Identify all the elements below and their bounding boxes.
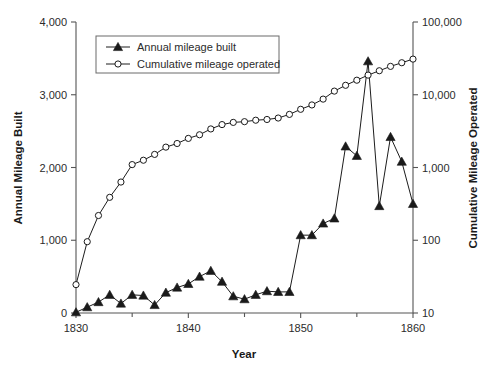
y-tick-label: 3,000 (39, 89, 67, 101)
data-point-marker (264, 116, 270, 122)
data-point-marker (140, 157, 146, 163)
x-tick-label: 1850 (288, 322, 312, 334)
legend-label: Cumulative mileage operated (137, 58, 280, 70)
data-point-marker (241, 119, 247, 125)
chart-canvas: 01,0002,0003,0004,000 101001,00010,00010… (0, 0, 496, 367)
y2-tick-label: 10 (422, 307, 434, 319)
data-point-marker (196, 132, 202, 138)
data-point-marker (253, 117, 259, 123)
data-point-marker (73, 282, 79, 288)
y-tick-label: 4,000 (39, 16, 67, 28)
data-point-marker (286, 111, 292, 117)
y-tick-label: 1,000 (39, 234, 67, 246)
data-point-marker (343, 82, 349, 88)
data-point-marker (107, 194, 113, 200)
y2-tick-label: 1,000 (422, 162, 450, 174)
y2-axis-title: Cumulative Mileage Operated (467, 87, 479, 248)
data-point-marker (410, 56, 416, 62)
data-point-marker (354, 77, 360, 83)
data-point-marker (163, 144, 169, 150)
x-tick-label: 1830 (64, 322, 88, 334)
y2-tick-label: 10,000 (422, 89, 456, 101)
data-point-marker (219, 121, 225, 127)
data-point-marker (84, 239, 90, 245)
data-point-marker (185, 135, 191, 141)
data-point-marker (365, 72, 371, 78)
data-point-marker (208, 126, 214, 132)
legend-label: Annual mileage built (137, 41, 236, 53)
x-tick-label: 1860 (401, 322, 425, 334)
data-point-marker (331, 88, 337, 94)
data-point-marker (298, 106, 304, 112)
y2-tick-label: 100,000 (422, 16, 462, 28)
legend-circle-marker (115, 61, 121, 67)
y-axis-title: Annual Mileage Built (12, 111, 24, 224)
data-point-marker (387, 63, 393, 69)
data-point-marker (230, 119, 236, 125)
y-tick-label: 0 (61, 307, 67, 319)
y2-tick-label: 100 (422, 234, 440, 246)
data-point-marker (118, 179, 124, 185)
data-point-marker (320, 96, 326, 102)
data-point-marker (129, 161, 135, 167)
y-tick-label: 2,000 (39, 162, 67, 174)
data-point-marker (399, 60, 405, 66)
data-point-marker (174, 140, 180, 146)
x-tick-label: 1840 (176, 322, 200, 334)
data-point-marker (309, 102, 315, 108)
x-axis-title: Year (232, 348, 257, 360)
data-point-marker (95, 212, 101, 218)
data-point-marker (275, 115, 281, 121)
railway-mileage-chart: 01,0002,0003,0004,000 101001,00010,00010… (0, 0, 496, 367)
data-point-marker (376, 68, 382, 74)
chart-legend: Annual mileage builtCumulative mileage o… (96, 36, 280, 73)
data-point-marker (152, 151, 158, 157)
